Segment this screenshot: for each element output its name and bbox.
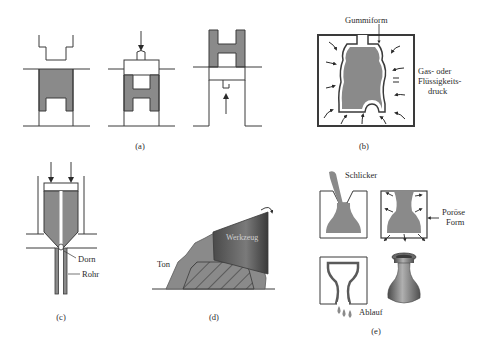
label-ablauf: Ablauf xyxy=(359,307,383,317)
punch-stem xyxy=(223,80,229,88)
mould-1-pouring xyxy=(320,171,367,238)
mould-2-porous-form xyxy=(381,191,439,240)
drop-icon xyxy=(349,310,352,318)
caption-c: (c) xyxy=(56,312,66,322)
label-ton: Ton xyxy=(157,259,171,269)
pressed-h-part xyxy=(124,75,159,111)
label-gummiform: Gummiform xyxy=(345,15,388,25)
panel-a-stage-1 xyxy=(23,35,90,126)
lower-punch xyxy=(209,67,245,80)
label-schlicker: Schlicker xyxy=(345,170,377,180)
label-werkzeug: Werkzeug xyxy=(226,233,258,242)
drops xyxy=(338,306,352,318)
label-rohr: Rohr xyxy=(82,269,99,279)
label-pressure-line2: Flüssigkeits- xyxy=(418,76,462,86)
label-poroese-line2: Form xyxy=(446,217,465,227)
caption-e: (e) xyxy=(371,326,381,336)
pressure-arrow-icon xyxy=(394,68,404,70)
tube-wall-right xyxy=(64,248,68,294)
pressure-arrow-icon xyxy=(326,62,335,64)
panel-a-die-pressing xyxy=(23,30,262,126)
pressure-arrow-icon xyxy=(324,110,332,118)
label-dorn: Dorn xyxy=(78,254,96,264)
rotation-arrow-icon xyxy=(261,207,272,212)
caption-d: (d) xyxy=(209,312,219,322)
mandrel-tip xyxy=(59,244,64,250)
panel-e-slip-casting xyxy=(320,171,439,318)
ram xyxy=(44,183,78,191)
caption-b: (b) xyxy=(359,141,369,151)
pressure-arrow-icon xyxy=(341,116,346,124)
tube-wall-left xyxy=(55,248,59,294)
pressure-arrow-icon xyxy=(392,46,400,52)
drop-icon xyxy=(338,306,341,314)
ejected-h-part xyxy=(209,30,245,67)
pressure-arrow-icon xyxy=(381,117,386,124)
upper-punch xyxy=(124,60,159,75)
finished-vase xyxy=(388,253,420,303)
label-pressure-line1: Gas- oder xyxy=(418,66,451,76)
pressure-arrow-icon xyxy=(396,95,405,96)
punch-stem xyxy=(137,51,145,61)
pressure-arrow-icon xyxy=(329,42,336,49)
panel-a-stage-3 xyxy=(193,30,262,126)
upper-punch-outline xyxy=(39,35,73,60)
pressure-arrow-icon xyxy=(326,86,334,88)
panel-d-jiggering xyxy=(152,207,275,289)
label-pressure-line3: druck xyxy=(428,86,448,96)
powder-fill xyxy=(39,69,73,111)
caption-a: (a) xyxy=(135,141,145,151)
figure-ceramic-forming-processes: (a) Gummiform Gas- oder Flüssigkeits- dr… xyxy=(0,0,488,353)
drop-icon xyxy=(343,309,346,317)
powder-fill xyxy=(342,47,383,109)
panel-b-isostatic-pressing xyxy=(318,24,414,126)
pressure-arrow-icon xyxy=(362,115,363,124)
label-poroese-line1: Poröse xyxy=(442,207,465,217)
panel-a-stage-2 xyxy=(108,31,175,126)
pressure-arrow-icon xyxy=(396,113,405,119)
